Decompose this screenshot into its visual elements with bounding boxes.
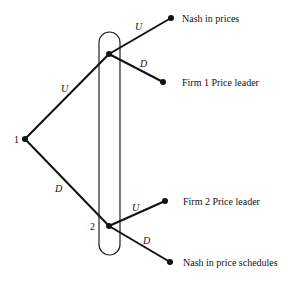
outcome-label-nash-in-prices: Nash in prices (182, 13, 239, 24)
terminal-node-2 (160, 79, 166, 85)
player-2-label: 2 (90, 221, 95, 232)
outcome-label-firm2-price-leader: Firm 2 Price leader (183, 196, 261, 207)
node-player-2-upper (106, 51, 112, 57)
edge-1-down (25, 139, 109, 226)
node-player-2-lower (106, 223, 112, 229)
game-tree-diagram: 1 2 U D U D U D Nash in prices Firm 1 Pr… (0, 0, 297, 285)
edge-2u-down (109, 54, 163, 82)
player-1-label: 1 (14, 134, 19, 145)
edge-2d-down (109, 226, 170, 262)
terminal-node-1 (168, 15, 174, 21)
terminal-node-4 (167, 259, 173, 265)
edge-label-2u-up: U (135, 21, 143, 32)
edge-label-2d-up: U (132, 202, 140, 213)
terminal-node-3 (162, 198, 168, 204)
edge-label-1-up: U (61, 83, 69, 94)
edge-label-2d-down: D (142, 235, 151, 246)
edge-1-up (25, 54, 109, 139)
edge-label-1-down: D (54, 183, 63, 194)
node-player-1 (22, 136, 28, 142)
outcome-label-firm1-price-leader: Firm 1 Price leader (182, 77, 260, 88)
outcome-label-nash-in-price-schedules: Nash in price schedules (183, 257, 278, 268)
edge-label-2u-down: D (139, 58, 148, 69)
